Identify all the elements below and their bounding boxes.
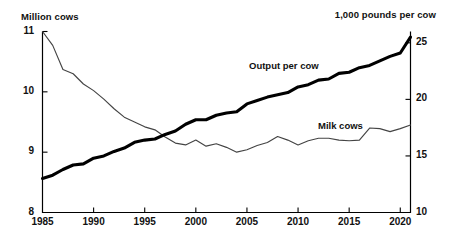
chart-canvas <box>0 0 449 244</box>
right-tick-label-25: 25 <box>416 36 442 47</box>
left-tick-label-9: 9 <box>8 145 34 156</box>
x-axis-ticks <box>94 208 401 213</box>
x-tick-label-1990: 1990 <box>72 216 116 227</box>
left-tick-label-10: 10 <box>8 85 34 96</box>
x-tick-label-1995: 1995 <box>123 216 167 227</box>
left-tick-label-11: 11 <box>8 25 34 36</box>
left-tick-label-8: 8 <box>8 206 34 217</box>
right-tick-label-15: 15 <box>416 149 442 160</box>
x-tick-label-2015: 2015 <box>327 216 371 227</box>
x-tick-label-2000: 2000 <box>174 216 218 227</box>
x-tick-label-2010: 2010 <box>276 216 320 227</box>
right-axis-ticks <box>406 43 411 156</box>
series-label-output-per-cow: Output per cow <box>249 60 319 71</box>
series-label-milk-cows: Milk cows <box>318 120 363 131</box>
x-tick-label-2020: 2020 <box>378 216 422 227</box>
right-tick-label-20: 20 <box>416 92 442 103</box>
dairy-chart: Million cows 1,000 pounds per cow 891011… <box>0 0 449 244</box>
x-tick-label-2005: 2005 <box>225 216 269 227</box>
series-line-output-per-cow <box>43 37 411 178</box>
x-tick-label-1985: 1985 <box>21 216 65 227</box>
right-tick-label-10: 10 <box>416 206 442 217</box>
left-axis-ticks <box>43 32 48 153</box>
series-line-milk-cows <box>43 32 411 153</box>
